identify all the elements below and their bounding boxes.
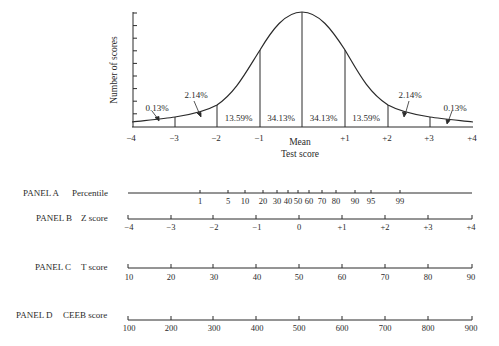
x-tick-label: −1: [254, 133, 264, 143]
x-tick-label: −3: [169, 133, 179, 143]
ceeb-tick-label: 600: [336, 323, 349, 333]
segment-label-right-2-14: 2.14%: [398, 90, 422, 100]
y-axis-label: Number of scores: [109, 36, 119, 104]
normal-distribution-figure: Number of scores 0.13% 2.14: [0, 0, 499, 346]
sd-division-lines: [175, 12, 430, 127]
z-tick-label: +2: [380, 222, 389, 232]
segment-label-left-tail: 0.13%: [145, 103, 169, 113]
panel-b-name: PANEL B: [36, 213, 72, 223]
ceeb-tick-label: 100: [123, 323, 136, 333]
t-tick-label: 80: [424, 272, 433, 282]
panel-a-name: PANEL A: [23, 188, 60, 198]
x-tick-label: +3: [424, 133, 434, 143]
ceeb-tick-label: 300: [208, 323, 221, 333]
percentile-tick-label: 60: [305, 196, 314, 206]
z-tick-label: 0: [297, 222, 301, 232]
percentile-tick-label: 10: [241, 196, 250, 206]
percentile-tick-label: 99: [396, 196, 405, 206]
percentile-tick-label: 80: [332, 196, 341, 206]
x-axis-title: Test score: [281, 149, 319, 159]
ceeb-tick-label: 800: [422, 323, 435, 333]
z-tick-label: −2: [209, 222, 218, 232]
z-tick-label: −1: [252, 222, 261, 232]
percentile-tick-label: 50: [294, 196, 303, 206]
mean-label: Mean: [289, 137, 311, 147]
ceeb-tick-label: 200: [165, 323, 178, 333]
t-tick-label: 70: [381, 272, 390, 282]
ceeb-tick-label: 900: [465, 323, 478, 333]
t-tick-label: 10: [125, 272, 134, 282]
segment-label-right-13-59: 13.59%: [352, 113, 380, 123]
panel-d-title: CEEB score: [63, 310, 107, 320]
x-tick-label: +2: [382, 133, 392, 143]
panel-b-title: Z score: [81, 213, 108, 223]
y-axis: [133, 12, 137, 127]
z-tick-label: +1: [337, 222, 346, 232]
t-tick-label: 20: [167, 272, 176, 282]
percentile-tick-label: 70: [318, 196, 327, 206]
segment-label-left-13-59: 13.59%: [225, 113, 253, 123]
percentile-tick-label: 5: [226, 196, 230, 206]
figure-canvas: Number of scores 0.13% 2.14: [0, 0, 499, 346]
z-tick-label: +4: [466, 222, 476, 232]
percentile-tick-label: 90: [351, 196, 360, 206]
z-tick-label: −3: [166, 222, 175, 232]
panel-b-z-score: PANEL B Z score −4 −3 −2 −1 0 +1: [36, 213, 476, 232]
t-tick-label: 40: [253, 272, 262, 282]
x-tick-label: −2: [211, 133, 221, 143]
segment-label-left-2-14: 2.14%: [184, 90, 208, 100]
segment-label-right-34-13: 34.13%: [310, 113, 338, 123]
z-tick-label: −4: [124, 222, 134, 232]
panel-c-title: T score: [81, 262, 108, 272]
panel-c-t-score: PANEL C T score 10 20 30 40 50 60: [35, 262, 475, 282]
percentile-tick-label: 30: [273, 196, 282, 206]
x-tick-label: +1: [340, 133, 350, 143]
percentile-tick-label: 20: [259, 196, 268, 206]
percentile-tick-label: 1: [198, 196, 202, 206]
ceeb-tick-label: 400: [251, 323, 264, 333]
t-tick-label: 30: [210, 272, 219, 282]
t-tick-label: 50: [295, 272, 304, 282]
percentile-tick-label: 40: [284, 196, 293, 206]
percentile-tick-label: 95: [367, 196, 376, 206]
ceeb-tick-label: 700: [379, 323, 392, 333]
z-tick-label: +3: [423, 222, 432, 232]
x-tick-label: +4: [467, 133, 477, 143]
x-tick-label: −4: [126, 133, 136, 143]
segment-label-right-tail: 0.13%: [443, 103, 467, 113]
panel-a-percentile: PANEL A Percentile 1 5 10: [23, 188, 472, 206]
ceeb-tick-label: 500: [293, 323, 306, 333]
t-tick-label: 60: [338, 272, 347, 282]
t-tick-label: 90: [467, 272, 476, 282]
panel-d-name: PANEL D: [16, 310, 53, 320]
panel-d-ceeb-score: PANEL D CEEB score 100 200 300 400 500: [16, 310, 477, 333]
panel-a-title: Percentile: [72, 188, 108, 198]
segment-label-left-34-13: 34.13%: [267, 113, 295, 123]
panel-c-name: PANEL C: [35, 262, 71, 272]
